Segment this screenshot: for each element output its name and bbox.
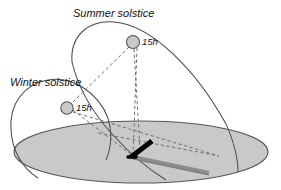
summer-hour-marker-label: 15h: [142, 36, 158, 47]
diagram-canvas: Summer solstice Winter solstice 15h 15h: [0, 0, 281, 190]
summer-sun-marker: [127, 36, 140, 49]
solstice-sun-path-figure: Summer solstice Winter solstice 15h 15h: [0, 0, 281, 190]
winter-sun-marker: [61, 102, 73, 114]
winter-solstice-label: Winter solstice: [10, 76, 81, 88]
dashed-summer-to-winter-sun: [72, 47, 129, 103]
winter-hour-marker-label: 15h: [76, 102, 92, 113]
summer-solstice-label: Summer solstice: [73, 7, 154, 19]
